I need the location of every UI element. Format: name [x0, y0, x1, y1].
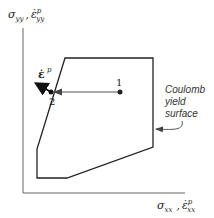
x-axis-label: σxx,ε̇pxx	[157, 198, 195, 214]
yield-surface-diagram: 1 2 ε̇ p σyy,ε̇pyy σxx,ε̇pxx Coulomb yie…	[0, 0, 214, 218]
surface-pointer-arrow	[156, 121, 182, 129]
surface-label-line-1: Coulomb	[165, 84, 205, 95]
point-1-label: 1	[116, 77, 122, 88]
surface-label-line-3: surface	[165, 108, 198, 119]
yield-surface-polygon	[37, 58, 153, 178]
strain-rate-label: ε̇	[38, 68, 45, 81]
surface-label-line-2: yield	[164, 96, 186, 107]
y-axis-label: σyy,ε̇pyy	[8, 7, 45, 23]
strain-rate-vector	[37, 84, 51, 92]
point-1	[118, 90, 123, 95]
point-2-label: 2	[49, 96, 55, 107]
strain-rate-label-sup: p	[47, 66, 52, 74]
